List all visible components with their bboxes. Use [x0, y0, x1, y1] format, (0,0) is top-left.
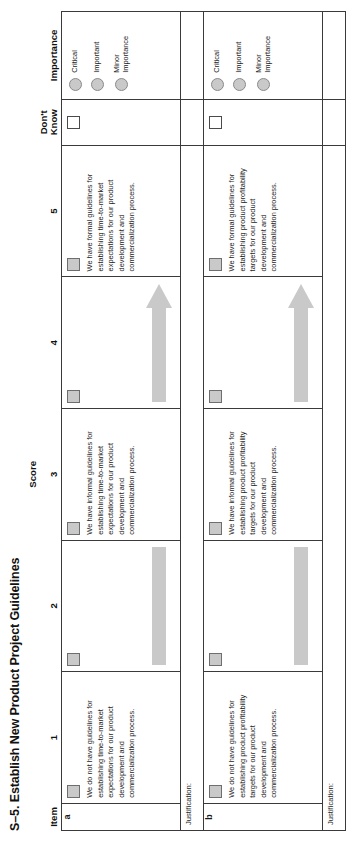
table-row: b We do not have guidelines for establis… [204, 12, 323, 831]
row-b-importance-critical-label: Critical [213, 50, 222, 73]
radio-circle-icon[interactable] [211, 78, 224, 91]
row-b-arrow-4 [282, 277, 316, 408]
assessment-table: Score Item 1 2 3 4 5 Don't Know Importan… [28, 11, 346, 831]
header-score-3: 3 [39, 409, 62, 541]
row-a-score-3-cell[interactable]: We have informal guidelines for establis… [62, 409, 181, 541]
radio-circle-icon[interactable] [233, 78, 246, 91]
row-b-justification-dk-blank [323, 99, 346, 145]
row-b-score-3-text: We have informal guidelines for establis… [227, 423, 280, 535]
header-dont-know-line2: Know [48, 109, 59, 135]
row-b-score-2-checkbox[interactable] [209, 653, 222, 666]
row-b-justification-imp-blank [323, 12, 346, 100]
row-a-importance-minor-label: Minor Importance [113, 18, 130, 73]
row-b-importance-minor-label: Minor Importance [255, 18, 272, 73]
radio-circle-icon[interactable] [69, 78, 82, 91]
row-b-score-5-cell[interactable]: We have formal guidelines for establishi… [204, 145, 323, 277]
row-a-justification-label: Justification: [181, 146, 193, 830]
row-b-score-2-cell[interactable] [204, 540, 323, 672]
row-b-justification-label: Justification: [323, 146, 335, 830]
row-a-score-3-checkbox[interactable] [67, 522, 80, 535]
row-a-importance-cell[interactable]: Critical Important Minor Importance [62, 12, 181, 100]
row-a-score-5-text: We have formal guidelines for establishi… [85, 159, 138, 271]
row-b-importance-minor[interactable]: Minor Importance [255, 18, 272, 91]
row-a-score-1-checkbox[interactable] [67, 785, 80, 798]
row-b-score-1-cell[interactable]: We do not have guidelines for establishi… [204, 672, 323, 804]
row-b-arrow-2 [282, 541, 316, 672]
row-b-score-3-checkbox[interactable] [209, 522, 222, 535]
row-b-importance-important-label: Important [235, 42, 244, 73]
header-score-group: Score [28, 145, 39, 803]
header-spacer-item [28, 803, 39, 830]
row-a-dont-know-cell[interactable] [62, 99, 181, 145]
row-b-item-letter: b [204, 803, 323, 830]
row-a-justification-dk-blank [181, 99, 204, 145]
header-score-1: 1 [39, 672, 62, 804]
radio-circle-icon[interactable] [257, 78, 270, 91]
row-a-score-4-checkbox[interactable] [67, 390, 80, 403]
row-a-justification-imp-blank [181, 12, 204, 100]
row-a-score-1-cell[interactable]: We do not have guidelines for establishi… [62, 672, 181, 804]
row-b-importance-important[interactable]: Important [233, 18, 246, 91]
row-b-importance-critical[interactable]: Critical [211, 18, 224, 91]
row-a-score-2-cell[interactable] [62, 540, 181, 672]
row-a-score-1-text: We do not have guidelines for establishi… [85, 686, 138, 798]
row-a-score-5-checkbox[interactable] [67, 258, 80, 271]
row-a-score-3-text: We have informal guidelines for establis… [85, 423, 138, 535]
header-score-2: 2 [39, 540, 62, 672]
row-b-justification-cell[interactable]: Justification: [323, 145, 346, 830]
header-dont-know: Don't Know [39, 99, 62, 145]
row-b-score-5-text: We have formal guidelines for establishi… [227, 159, 280, 271]
assessment-form-page: S–5. Establish New Product Project Guide… [0, 0, 355, 843]
row-a-importance-important[interactable]: Important [91, 18, 104, 91]
header-spacer-imp [28, 12, 39, 100]
page-title: S–5. Establish New Product Project Guide… [8, 10, 22, 831]
table-row: a We do not have guidelines for establis… [62, 12, 181, 831]
row-b-score-3-cell[interactable]: We have informal guidelines for establis… [204, 409, 323, 541]
radio-circle-icon[interactable] [91, 78, 104, 91]
header-score-4: 4 [39, 277, 62, 409]
row-a-importance-critical-label: Critical [71, 50, 80, 73]
header-item: Item [39, 803, 62, 830]
row-b-score-5-checkbox[interactable] [209, 258, 222, 271]
row-a-score-4-cell[interactable] [62, 277, 181, 409]
rotated-page-frame: S–5. Establish New Product Project Guide… [0, 0, 355, 843]
row-b-score-4-cell[interactable] [204, 277, 323, 409]
table-header-row: Item 1 2 3 4 5 Don't Know Importance [39, 12, 62, 831]
radio-circle-icon[interactable] [115, 78, 128, 91]
row-a-item-letter: a [62, 803, 181, 830]
justification-row[interactable]: Justification: [323, 12, 346, 831]
row-a-dont-know-checkbox[interactable] [67, 116, 80, 129]
justification-row[interactable]: Justification: [181, 12, 204, 831]
row-a-arrow-2 [140, 541, 174, 672]
header-importance: Importance [39, 12, 62, 100]
header-score-5: 5 [39, 145, 62, 277]
row-a-importance-important-label: Important [93, 42, 102, 73]
row-a-arrow-4 [140, 277, 174, 408]
row-a-justification-cell[interactable]: Justification: [181, 145, 204, 830]
row-b-dont-know-checkbox[interactable] [209, 116, 222, 129]
row-a-importance-minor[interactable]: Minor Importance [113, 18, 130, 91]
row-a-score-5-cell[interactable]: We have formal guidelines for establishi… [62, 145, 181, 277]
row-b-score-1-checkbox[interactable] [209, 785, 222, 798]
row-b-dont-know-cell[interactable] [204, 99, 323, 145]
row-a-importance-critical[interactable]: Critical [69, 18, 82, 91]
row-b-score-4-checkbox[interactable] [209, 390, 222, 403]
row-a-score-2-checkbox[interactable] [67, 653, 80, 666]
row-b-score-1-text: We do not have guidelines for establishi… [227, 686, 280, 798]
row-b-importance-cell[interactable]: Critical Important Minor Importance [204, 12, 323, 100]
